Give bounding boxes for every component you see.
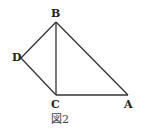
label-a: A [123,98,133,111]
segment-dc [21,58,56,95]
segment-ab [56,22,128,95]
segment-bd [21,22,56,58]
geometry-figure: B D C A 図2 [0,0,141,133]
figure-lines [21,22,128,95]
label-d: D [12,51,22,64]
label-b: B [51,7,60,20]
label-c: C [51,98,60,111]
figure-caption: 図2 [51,113,69,126]
